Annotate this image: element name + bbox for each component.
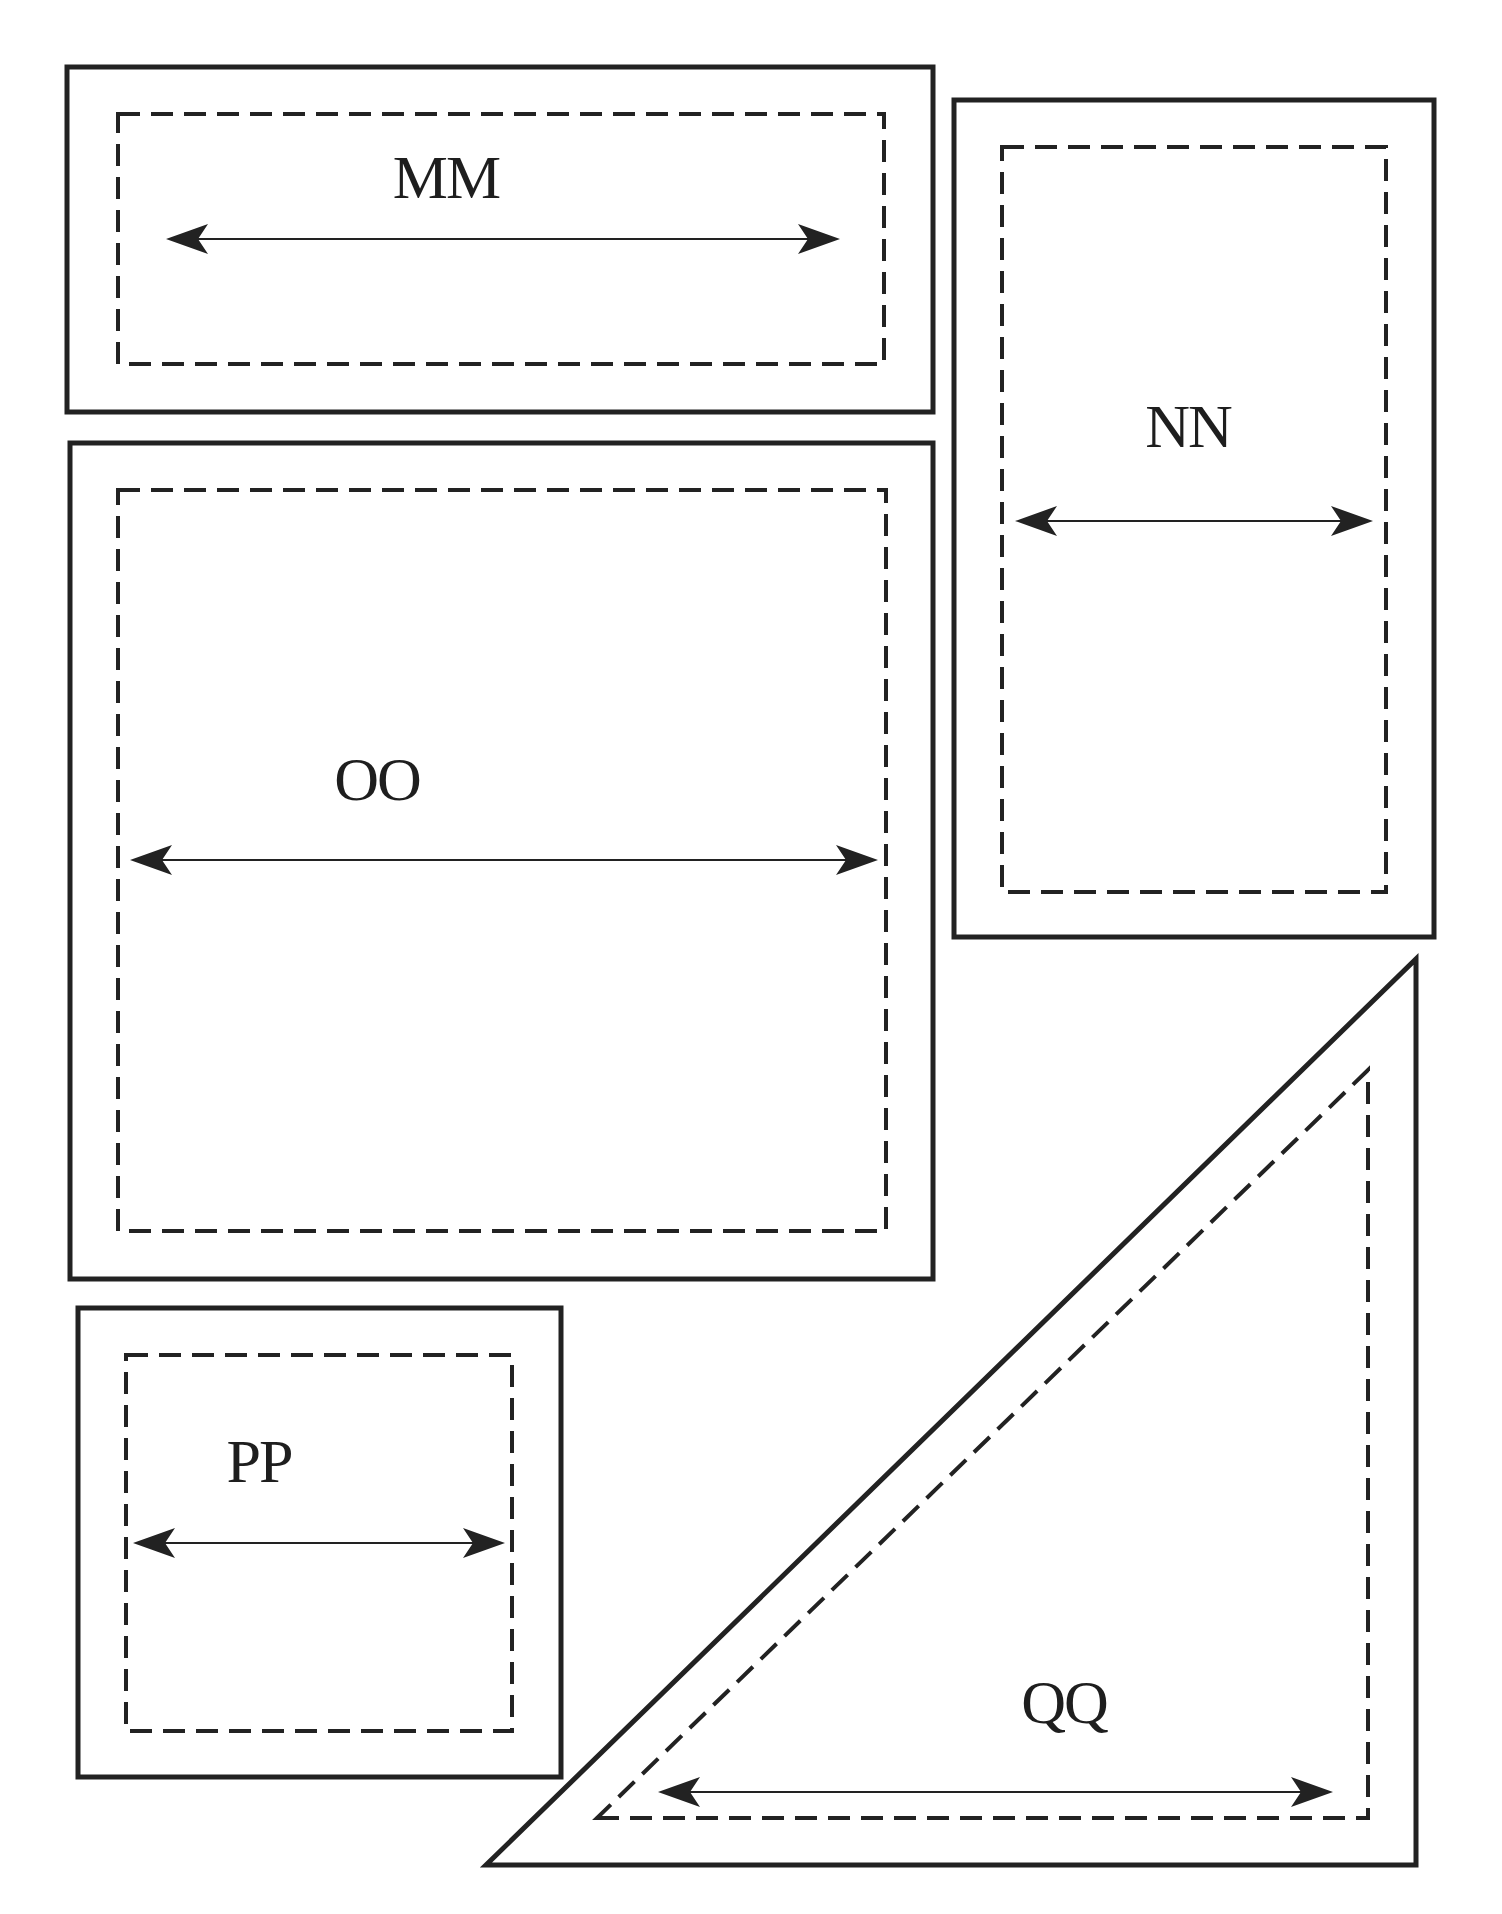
pattern-diagram: MM NN OO PP bbox=[0, 0, 1502, 1914]
piece-mm: MM bbox=[67, 67, 933, 412]
piece-nn-seam-line bbox=[1002, 147, 1386, 892]
piece-oo-label: OO bbox=[334, 745, 420, 813]
piece-qq-label: QQ bbox=[1021, 1668, 1108, 1736]
piece-qq: QQ bbox=[486, 959, 1416, 1865]
piece-pp-dimension-arrow bbox=[133, 1528, 505, 1558]
piece-nn-dimension-arrow bbox=[1015, 506, 1373, 536]
piece-mm-label: MM bbox=[393, 143, 500, 211]
piece-pp-label: PP bbox=[227, 1427, 292, 1495]
piece-pp: PP bbox=[78, 1308, 561, 1777]
piece-qq-seam-line bbox=[597, 1070, 1368, 1818]
piece-oo: OO bbox=[70, 443, 933, 1279]
piece-nn: NN bbox=[954, 100, 1434, 937]
piece-mm-dimension-arrow bbox=[166, 224, 840, 254]
piece-qq-dimension-arrow bbox=[658, 1777, 1333, 1807]
piece-oo-dimension-arrow bbox=[130, 845, 878, 875]
piece-qq-outer-border bbox=[486, 959, 1416, 1865]
piece-nn-label: NN bbox=[1145, 392, 1232, 460]
